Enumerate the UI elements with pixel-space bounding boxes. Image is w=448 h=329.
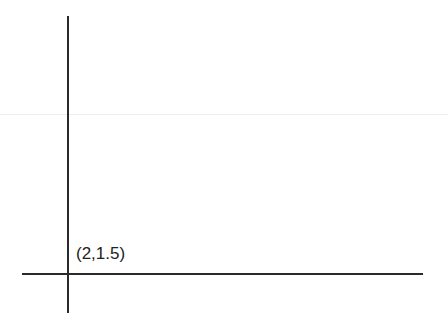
- vertical-axis: [67, 16, 69, 313]
- horizontal-axis: [22, 273, 423, 275]
- point-label: (2,1.5): [76, 244, 125, 264]
- diagram-canvas: (2,1.5): [0, 0, 448, 329]
